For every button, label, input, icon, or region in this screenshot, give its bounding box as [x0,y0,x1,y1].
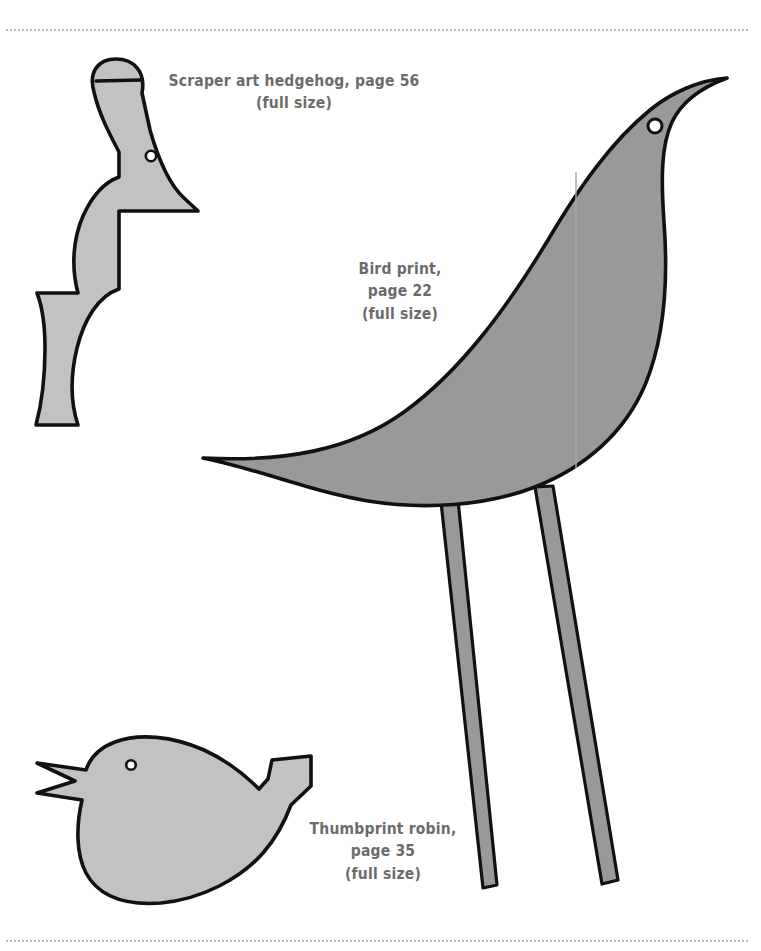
bottom-dotted-rule [6,940,748,942]
thumbprint-robin-template[interactable] [37,737,311,904]
template-shapes-canvas [0,0,761,951]
hedgehog-eye-hole[interactable] [146,151,156,161]
bird-eye-hole[interactable] [648,119,662,133]
robin-eye-hole[interactable] [126,760,136,770]
template-sheet: Scraper art hedgehog, page 56 (full size… [0,0,761,951]
hedgehog-head-division-line [96,80,141,81]
bird-right-leg[interactable] [535,486,618,884]
caption-robin: Thumbprint robin, page 35 (full size) [288,818,478,885]
top-dotted-rule [6,29,748,31]
robin-shape[interactable] [37,737,311,904]
caption-bird: Bird print, page 22 (full size) [310,258,490,325]
caption-hedgehog: Scraper art hedgehog, page 56 (full size… [152,70,436,115]
